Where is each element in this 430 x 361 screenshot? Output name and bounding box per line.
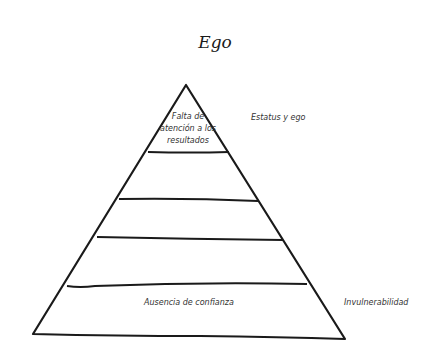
tier-divider-2 <box>119 199 258 201</box>
tier-divider-3 <box>97 237 283 240</box>
tier-divider-4 <box>67 283 307 287</box>
tier-divider-1 <box>148 152 229 153</box>
pyramid-diagram: Ego Falta de atención a los resultados E… <box>0 0 430 361</box>
top-side-label: Estatus y ego <box>251 113 305 122</box>
bottom-tier-label: Ausencia de confianza <box>144 298 234 307</box>
top-tier-label: Falta de atención a los resultados <box>160 111 216 147</box>
bottom-side-label: Invulnerabilidad <box>344 298 408 307</box>
